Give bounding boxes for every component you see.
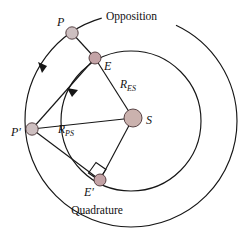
sun-s-marker xyxy=(124,109,142,127)
earth-e-label: E xyxy=(103,59,112,73)
line-planetprime-to-sun xyxy=(32,118,133,129)
planet-p-prime-marker xyxy=(26,123,38,135)
sun-s-label: S xyxy=(146,113,152,127)
inner-orbit-direction-arrow-icon xyxy=(67,88,78,97)
earth-e-prime-marker xyxy=(94,174,106,186)
planet-p-prime-label: P′ xyxy=(10,125,21,139)
quadrature-label: Quadrature xyxy=(71,204,123,216)
opposition-label: Opposition xyxy=(106,10,157,23)
planet-p-label: P xyxy=(56,15,65,29)
orbital-diagram: P E S P′ E′ RES RPS Opposition Quadratur… xyxy=(0,0,244,235)
earth-e-prime-label: E′ xyxy=(83,185,94,199)
diagram-canvas: P E S P′ E′ RES RPS Opposition Quadratur… xyxy=(0,0,244,235)
earth-e-marker xyxy=(89,52,101,64)
planet-p-marker xyxy=(66,27,78,39)
r-es-label: RES xyxy=(119,78,136,93)
